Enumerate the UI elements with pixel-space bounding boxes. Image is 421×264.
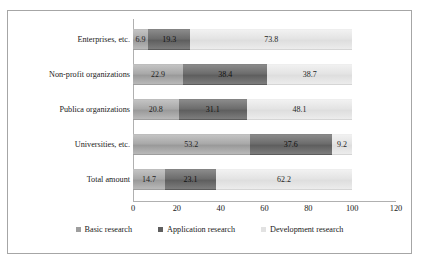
- x-tick-label: 60: [245, 204, 285, 213]
- x-tick-label: 20: [157, 204, 197, 213]
- bar-value-label: 62.2: [277, 175, 291, 184]
- bar-value-label: 73.8: [264, 35, 278, 44]
- bar-segment[interactable]: 38.7: [267, 64, 352, 85]
- bar-track: 22.938.438.7: [133, 64, 396, 85]
- legend-label: Application research: [167, 225, 235, 234]
- x-tick-label: 80: [288, 204, 328, 213]
- bar-segment[interactable]: 62.2: [216, 169, 352, 190]
- bar-value-label: 9.2: [337, 140, 347, 149]
- bar-value-label: 38.4: [218, 70, 232, 79]
- x-tick-label: 40: [201, 204, 241, 213]
- legend-label: Development research: [270, 225, 343, 234]
- category-label: Total amount: [0, 175, 130, 185]
- bar-value-label: 22.9: [151, 70, 165, 79]
- bar-segment[interactable]: 23.1: [165, 169, 216, 190]
- x-axis-line: [133, 201, 396, 202]
- bar-row: 53.237.69.2: [133, 134, 396, 155]
- bar-value-label: 37.6: [284, 140, 298, 149]
- bar-track: 20.831.148.1: [133, 99, 396, 120]
- bar-segment[interactable]: 53.2: [133, 134, 250, 155]
- plot-area: Enterprises, etc.Non-profit organization…: [8, 11, 411, 253]
- bar-segment[interactable]: 73.8: [190, 29, 352, 50]
- x-tick-label: 0: [113, 204, 153, 213]
- bar-value-label: 23.1: [184, 175, 198, 184]
- legend-item[interactable]: Development research: [261, 225, 343, 234]
- bar-row: 6.919.373.8: [133, 29, 396, 50]
- bar-value-label: 19.3: [162, 35, 176, 44]
- legend-swatch-icon: [261, 227, 266, 232]
- category-label: Publica organizations: [0, 105, 130, 115]
- bar-row: 20.831.148.1: [133, 99, 396, 120]
- chart-frame: Enterprises, etc.Non-profit organization…: [7, 10, 412, 254]
- bar-row: 22.938.438.7: [133, 64, 396, 85]
- bar-value-label: 31.1: [206, 105, 220, 114]
- bar-segment[interactable]: 9.2: [332, 134, 352, 155]
- bar-row: 14.723.162.2: [133, 169, 396, 190]
- bar-value-label: 53.2: [184, 140, 198, 149]
- category-label: Enterprises, etc.: [0, 35, 130, 45]
- category-label: Universities, etc.: [0, 140, 130, 150]
- bar-segment[interactable]: 20.8: [133, 99, 179, 120]
- bar-value-label: 20.8: [149, 105, 163, 114]
- bar-value-label: 48.1: [292, 105, 306, 114]
- bar-value-label: 6.9: [136, 35, 146, 44]
- legend-item[interactable]: Basic research: [76, 225, 133, 234]
- chart-legend: Basic researchApplication researchDevelo…: [8, 225, 411, 234]
- bar-value-label: 14.7: [142, 175, 156, 184]
- x-tick-label: 100: [332, 204, 372, 213]
- bar-segment[interactable]: 14.7: [133, 169, 165, 190]
- bar-segment[interactable]: 37.6: [250, 134, 332, 155]
- bar-segment[interactable]: 6.9: [133, 29, 148, 50]
- bar-segment[interactable]: 31.1: [179, 99, 247, 120]
- legend-swatch-icon: [158, 227, 163, 232]
- bar-segment[interactable]: 38.4: [183, 64, 267, 85]
- bar-segment[interactable]: 19.3: [148, 29, 190, 50]
- bar-segment[interactable]: 22.9: [133, 64, 183, 85]
- legend-item[interactable]: Application research: [158, 225, 235, 234]
- bar-value-label: 38.7: [303, 70, 317, 79]
- bar-track: 6.919.373.8: [133, 29, 396, 50]
- bar-track: 14.723.162.2: [133, 169, 396, 190]
- bar-segment[interactable]: 48.1: [247, 99, 352, 120]
- legend-swatch-icon: [76, 227, 81, 232]
- legend-label: Basic research: [85, 225, 133, 234]
- category-label: Non-profit organizations: [0, 70, 130, 80]
- bar-track: 53.237.69.2: [133, 134, 396, 155]
- x-tick-label: 120: [376, 204, 416, 213]
